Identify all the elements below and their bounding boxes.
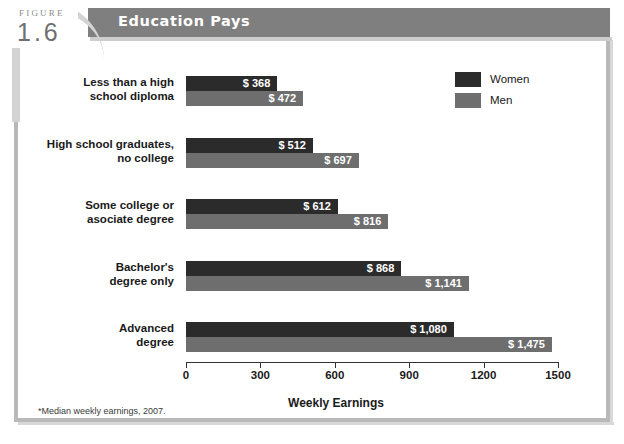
x-axis-tick-label: 300 (251, 369, 270, 381)
bar-value-label: $ 1,080 (186, 322, 454, 337)
footnote: *Median weekly earnings, 2007. (38, 406, 166, 416)
x-axis-tick-label: 1500 (545, 369, 571, 381)
x-axis-tick (186, 362, 187, 368)
x-axis-line (186, 362, 558, 363)
bar-value-label: $ 697 (186, 153, 359, 168)
x-axis-tick (335, 362, 336, 368)
x-axis-tick-label: 0 (183, 369, 189, 381)
legend-label-men: Men (490, 94, 512, 106)
category-label: Advanced degree (14, 321, 174, 349)
figure-container: Education Pays FIGURE 1.6 Weekly Earning… (0, 0, 624, 444)
bar-value-label: $ 1,141 (186, 276, 469, 291)
legend-swatch-men (455, 93, 481, 108)
x-axis-tick-label: 1200 (471, 369, 497, 381)
legend-label-women: Women (490, 73, 529, 85)
category-label: Some college or asociate degree (14, 198, 174, 226)
x-axis-tick-label: 600 (325, 369, 344, 381)
bar-chart-plot: Weekly Earnings Less than a high school … (0, 0, 624, 444)
category-label: Bachelor's degree only (14, 260, 174, 288)
x-axis-tick (558, 362, 559, 368)
bar-value-label: $ 868 (186, 261, 401, 276)
x-axis-tick (409, 362, 410, 368)
x-axis-title-text: Weekly Earnings (288, 396, 384, 410)
bar-value-label: $ 368 (186, 76, 277, 91)
legend-swatch-women (455, 72, 481, 87)
x-axis-tick (484, 362, 485, 368)
category-label: Less than a high school diploma (14, 75, 174, 103)
category-label: High school graduates, no college (14, 137, 174, 165)
bar-value-label: $ 1,475 (186, 337, 552, 352)
bar-value-label: $ 472 (186, 91, 303, 106)
x-axis-tick-label: 900 (400, 369, 419, 381)
bar-value-label: $ 816 (186, 214, 388, 229)
bar-value-label: $ 612 (186, 199, 338, 214)
x-axis-tick (260, 362, 261, 368)
bar-value-label: $ 512 (186, 138, 313, 153)
